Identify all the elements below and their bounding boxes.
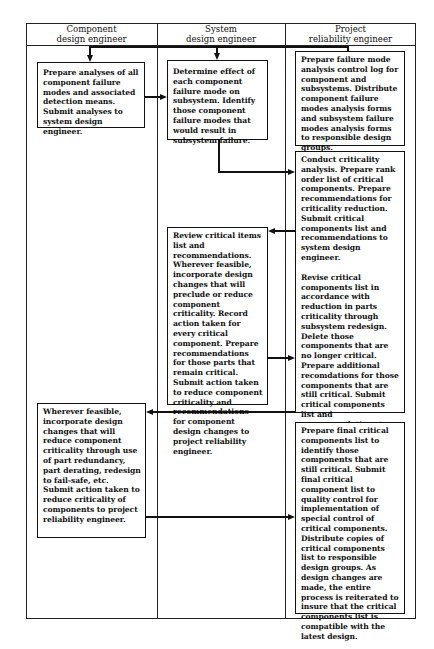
lane-header-system-line1: System <box>157 24 285 34</box>
connector-e-d <box>267 357 289 359</box>
step-box-f: Wherever feasible, incorporate design ch… <box>37 403 146 538</box>
arrow-to-b <box>214 53 220 60</box>
lane-header-system: System design engineer <box>157 23 285 45</box>
lane-divider-2 <box>285 23 286 619</box>
step-box-g-text: Prepare final critical components list t… <box>301 426 400 642</box>
lane-header-component-line1: Component <box>26 24 157 34</box>
arrow-b-d <box>288 169 295 175</box>
step-box-b-text: Determine effect of each component failu… <box>173 67 263 145</box>
connector-a-b <box>145 96 161 98</box>
step-box-e: Review critical items list and recommend… <box>167 227 268 405</box>
arrow-f-g <box>288 514 295 520</box>
arrow-a-b <box>160 94 167 100</box>
lane-header-system-line2: design engineer <box>157 34 285 44</box>
connector-f-g <box>145 516 289 518</box>
step-box-a-text: Prepare analyses of all component failur… <box>43 68 140 137</box>
step-box-e-text: Review critical items list and recommend… <box>173 231 263 456</box>
step-box-b: Determine effect of each component failu… <box>167 60 268 140</box>
step-box-d: Conduct criticality analysis. Prepare ra… <box>295 151 405 413</box>
step-box-c: Prepare failure mode analysis control lo… <box>295 51 405 146</box>
lane-header-component: Component design engineer <box>26 23 157 45</box>
lane-header-project-line1: Project <box>285 24 416 34</box>
arrow-d-f <box>146 409 153 415</box>
step-box-c-text: Prepare failure mode analysis control lo… <box>301 55 400 153</box>
step-box-g: Prepare final critical components list t… <box>295 422 405 614</box>
connector-d-e <box>274 230 295 232</box>
lane-header-project-line2: reliability engineer <box>285 34 416 44</box>
step-box-d-text-1: Conduct criticality analysis. Prepare ra… <box>301 155 400 263</box>
step-box-d-text-2: Revise critical components list in accor… <box>301 273 400 440</box>
connector-bus-top <box>89 46 348 48</box>
arrow-d-e <box>268 228 275 234</box>
step-box-a: Prepare analyses of all component failur… <box>37 62 145 128</box>
step-box-f-text: Wherever feasible, incorporate design ch… <box>43 407 141 525</box>
connector-b-d <box>218 171 289 173</box>
arrow-e-d <box>288 355 295 361</box>
lane-header-component-line2: design engineer <box>26 34 157 44</box>
lane-divider-1 <box>157 23 158 619</box>
lane-header-project: Project reliability engineer <box>285 23 416 45</box>
arrow-to-a <box>87 55 93 62</box>
